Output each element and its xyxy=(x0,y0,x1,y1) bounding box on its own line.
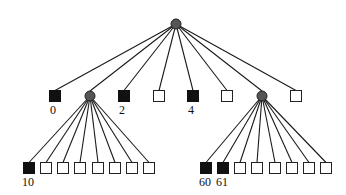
filled-leaf-n0 xyxy=(50,91,61,102)
label-node-10: 10 xyxy=(22,175,34,189)
label-node-2: 2 xyxy=(119,103,125,117)
label-node-61: 61 xyxy=(216,175,228,189)
edge-root-to-n4 xyxy=(176,24,193,91)
filled-leaf-n6-0 xyxy=(201,163,212,174)
edge-root-to-n0 xyxy=(55,24,176,91)
filled-leaf-n1-0 xyxy=(24,163,35,174)
empty-leaf-n6-2 xyxy=(235,163,246,174)
edge-root-to-n3 xyxy=(159,24,176,91)
edge-root-to-n2 xyxy=(124,24,176,91)
edge-root-to-n1 xyxy=(90,24,176,91)
empty-leaf-n6-5 xyxy=(287,163,298,174)
edge-n6-child-3 xyxy=(257,96,262,163)
edge-n6-child-2 xyxy=(240,96,262,163)
empty-leaf-n1-2 xyxy=(58,163,69,174)
edge-n6-child-7 xyxy=(262,96,326,163)
label-node-0: 0 xyxy=(50,103,56,117)
empty-leaf-n5 xyxy=(222,91,233,102)
internal-node-n1 xyxy=(85,91,95,101)
filled-leaf-n2 xyxy=(119,91,130,102)
empty-leaf-n3 xyxy=(154,91,165,102)
label-node-60: 60 xyxy=(199,175,211,189)
empty-leaf-n1-5 xyxy=(110,163,121,174)
edge-n6-child-5 xyxy=(262,96,292,163)
empty-leaf-n6-7 xyxy=(321,163,332,174)
edge-n6-child-1 xyxy=(223,96,262,163)
empty-leaf-n6-4 xyxy=(270,163,281,174)
empty-leaf-n1-7 xyxy=(144,163,155,174)
empty-leaf-n1-4 xyxy=(93,163,104,174)
edge-n1-child-2 xyxy=(63,96,90,163)
edge-n6-child-0 xyxy=(206,96,262,163)
node-labels: 0 2 4 10 60 61 xyxy=(22,103,228,189)
label-node-4: 4 xyxy=(188,103,194,117)
empty-leaf-n1-1 xyxy=(41,163,52,174)
empty-leaf-n1-3 xyxy=(75,163,86,174)
empty-leaf-n6-3 xyxy=(252,163,263,174)
tree-diagram: 0 2 4 10 60 61 xyxy=(0,0,346,195)
empty-leaf-n1-6 xyxy=(127,163,138,174)
edge-n1-child-0 xyxy=(29,96,90,163)
empty-leaf-n6-6 xyxy=(304,163,315,174)
tree-edges xyxy=(29,24,326,163)
internal-node-n6 xyxy=(257,91,267,101)
root-node xyxy=(171,19,181,29)
filled-leaf-n6-1 xyxy=(218,163,229,174)
tree-nodes xyxy=(24,19,332,174)
edge-root-to-n7 xyxy=(176,24,296,91)
empty-leaf-n7 xyxy=(291,91,302,102)
filled-leaf-n4 xyxy=(188,91,199,102)
